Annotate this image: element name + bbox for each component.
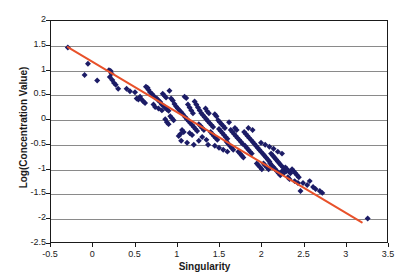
plot-area: [50, 20, 388, 243]
data-point: [205, 142, 211, 148]
data-point: [82, 72, 88, 78]
data-point: [184, 140, 190, 146]
x-tick-label: 0.5: [120, 249, 150, 259]
x-tick-label: 1: [162, 249, 192, 259]
scatter-chart: -2.5-2-1.5-1-0.500.511.52 -0.500.511.522…: [0, 0, 409, 279]
data-point: [297, 188, 303, 194]
y-tick-mark: [46, 193, 50, 194]
y-tick-mark: [46, 20, 50, 21]
plot-canvas: [51, 21, 387, 242]
y-tick-mark: [46, 218, 50, 219]
data-point: [196, 138, 202, 144]
y-tick-mark: [46, 119, 50, 120]
x-tick-mark: [219, 243, 220, 247]
y-tick-mark: [46, 70, 50, 71]
y-tick-label: 2: [8, 14, 46, 24]
x-tick-mark: [50, 243, 51, 247]
data-point: [94, 77, 100, 83]
x-tick-mark: [388, 243, 389, 247]
x-tick-label: 1.5: [204, 249, 234, 259]
data-point: [166, 88, 172, 94]
x-tick-mark: [92, 243, 93, 247]
x-tick-mark: [177, 243, 178, 247]
data-point: [132, 89, 138, 95]
x-tick-mark: [304, 243, 305, 247]
data-point: [365, 215, 371, 221]
data-points: [65, 45, 371, 222]
x-axis-title: Singularity: [0, 261, 409, 272]
data-point: [226, 119, 232, 125]
x-tick-label: -0.5: [35, 249, 65, 259]
y-tick-label: -2.5: [8, 237, 46, 247]
x-tick-label: 3.5: [373, 249, 403, 259]
x-tick-label: 2: [246, 249, 276, 259]
y-tick-mark: [46, 144, 50, 145]
trendline: [68, 47, 362, 222]
y-axis-title: Log(Concentration Value): [18, 38, 29, 218]
y-tick-mark: [46, 94, 50, 95]
x-tick-label: 2.5: [289, 249, 319, 259]
data-point: [191, 142, 197, 148]
x-tick-mark: [346, 243, 347, 247]
data-point: [178, 138, 184, 144]
y-tick-mark: [46, 169, 50, 170]
y-tick-mark: [46, 45, 50, 46]
data-point: [85, 61, 91, 67]
x-tick-mark: [135, 243, 136, 247]
x-tick-label: 0: [77, 249, 107, 259]
x-tick-label: 3: [331, 249, 361, 259]
x-tick-mark: [261, 243, 262, 247]
